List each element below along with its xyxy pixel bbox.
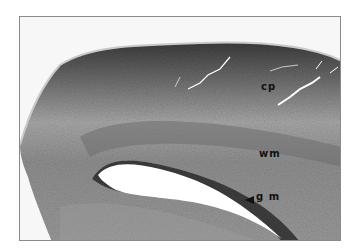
label-germinal-matrix: g m — [256, 191, 280, 202]
label-cortical-plate: cp — [261, 81, 276, 92]
label-white-matter: wm — [259, 148, 281, 159]
tissue-section — [20, 17, 341, 241]
micrograph-frame: cp wm g m — [19, 16, 341, 241]
arrowhead-icon — [245, 196, 254, 204]
